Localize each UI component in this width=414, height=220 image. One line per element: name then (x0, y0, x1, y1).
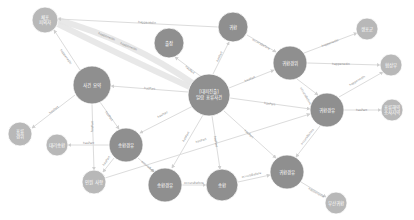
edge-label: occursBefore (252, 37, 271, 50)
edge-label: hasPart (157, 110, 170, 119)
node-label: 생포군 (361, 26, 373, 32)
node-label: 귀환경유 (319, 107, 335, 114)
node-arrest-suspect[interactable]: 체포 피의자 (32, 7, 58, 33)
edge-label: hasPart (144, 86, 156, 91)
node-label: 송환 (218, 182, 226, 188)
edge-label: hasPart (83, 141, 95, 145)
node-label: 귀환 (229, 24, 237, 31)
edge-label: hasPart (195, 137, 208, 144)
node-proxy-repatriation[interactable]: 대리송환 (46, 134, 68, 156)
node-personnel[interactable]: 인원 사항 (82, 170, 106, 194)
edge-label: hasPart (184, 65, 196, 76)
node-repatriation[interactable]: 송환 (206, 169, 238, 201)
node-repatriation-route-2[interactable]: 송환경유 (148, 168, 182, 202)
edge[interactable] (213, 42, 229, 74)
edge-label: hasPart (90, 120, 94, 132)
node-busan-return[interactable]: 부산귀환 (325, 192, 347, 214)
node-label: 출장 (165, 40, 173, 47)
node-label: 사건 요약 (83, 82, 100, 89)
node-return-route-1[interactable]: 귀환경위 (273, 46, 307, 80)
node-label: 송환경유 (118, 142, 134, 149)
node-return-route-3[interactable]: 귀환경유 (270, 155, 304, 189)
edge-label: happenedIn (138, 20, 156, 25)
edge-label: hasPart (264, 101, 276, 107)
node-label: 일람 표류사건 (196, 94, 221, 101)
node-label: 협상부 (385, 62, 397, 69)
edge-label: hasPart (213, 136, 219, 148)
node-captives[interactable]: 생포군 (356, 18, 378, 40)
node-dispatch[interactable]: 출장 (154, 28, 184, 58)
node-repatriation-route-1[interactable]: 송환경유 (109, 128, 143, 162)
node-label: 경위 (16, 133, 24, 140)
node-label: 송환경유 (157, 182, 173, 189)
node-return-route-2[interactable]: 귀환경유 (310, 93, 344, 127)
edge-label: hasPart (181, 130, 190, 142)
node-drift-area[interactable]: 표류해역 조사지역 (381, 99, 403, 121)
edge-label: occursBefore (184, 181, 204, 185)
node-label: 피의자 (39, 19, 52, 26)
edge-label: happenedIn (308, 186, 326, 198)
node-label: 인원 사항 (85, 179, 102, 186)
node-label: 귀환경위 (282, 60, 298, 67)
edge-label: hasPart (244, 75, 257, 83)
node-central-event[interactable]: [대피진출] 일람 표류사건 (188, 74, 230, 116)
knowledge-graph: happenedIn happenedIn happenedIn hasPart… (0, 0, 414, 220)
node-return[interactable]: 귀환 (218, 12, 248, 42)
edge-label: happenedIn (332, 62, 350, 66)
node-negotiation[interactable]: 협상부 (380, 54, 402, 76)
node-case-summary[interactable]: 사건 요약 (73, 66, 111, 104)
edge-label: happenedIn (321, 38, 339, 48)
edge-label: hasPart (48, 104, 60, 114)
node-label: 대리송환 (49, 142, 65, 149)
edge-label: happenedIn (349, 74, 367, 86)
edge[interactable] (92, 104, 94, 170)
node-label: 조사지역 (384, 109, 400, 116)
edge-label: happenedIn (59, 48, 73, 65)
node-drift-details[interactable]: 표류 경위 (8, 122, 32, 146)
edge-label: hasPart (356, 108, 368, 112)
node-label: 귀환경유 (279, 169, 295, 176)
node-label: [대피진출] (199, 88, 219, 95)
edge-label: hasPart (215, 50, 224, 63)
node-label: 부산귀환 (328, 200, 344, 207)
edge-label: hasPart (102, 154, 112, 166)
edge[interactable] (296, 126, 320, 157)
